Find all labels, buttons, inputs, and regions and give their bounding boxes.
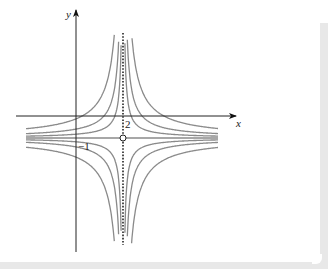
- hyperbola-branch: [125, 43, 218, 136]
- hyperbola-branch: [26, 140, 121, 231]
- hyperbola-branch: [132, 148, 218, 244]
- hyperbola-branch: [125, 140, 218, 233]
- y-tick-label-neg1: −1: [78, 140, 90, 152]
- hyperbola-branch: [132, 38, 218, 128]
- hyperbola-branch: [26, 147, 114, 241]
- y-axis-label: y: [65, 8, 71, 20]
- x-tick-label-2: 2: [125, 118, 131, 130]
- open-point: [120, 135, 126, 141]
- hyperbola-branch: [26, 35, 114, 129]
- hyperbola-plot: y x 2 −1: [0, 0, 336, 277]
- x-axis-label: x: [235, 117, 241, 129]
- hyperbola-branch: [26, 45, 121, 136]
